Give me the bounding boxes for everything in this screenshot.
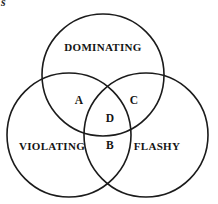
region-label-c: C [130, 95, 139, 107]
set-label-flashy: FLASHY [134, 141, 180, 152]
circle-dominating [42, 14, 164, 136]
set-label-violating: VIOLATING [19, 141, 85, 152]
set-label-dominating: DOMINATING [64, 42, 141, 53]
circle-flashy [84, 73, 208, 197]
region-label-a: A [75, 95, 84, 107]
region-label-b: B [106, 140, 114, 152]
venn-diagram: s DOMINATING VIOLATING FLASHY A C D B [0, 0, 218, 204]
venn-circles-canvas [0, 0, 218, 204]
region-label-d: D [106, 113, 115, 125]
